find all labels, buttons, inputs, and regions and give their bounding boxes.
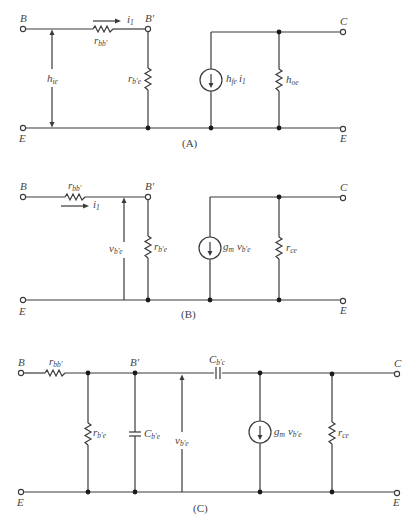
label-e-out: E — [392, 496, 400, 508]
junction-dot — [277, 126, 282, 131]
resistor-rbb-icon — [93, 26, 113, 32]
label-i1: i1 — [127, 13, 134, 27]
junction-dot — [146, 298, 151, 303]
label-cbc: Cb'c — [209, 353, 226, 367]
junction-dot — [86, 490, 91, 495]
terminal-c — [340, 195, 345, 200]
label-b: B — [18, 356, 25, 368]
terminal-b-prime — [145, 194, 150, 199]
label-c: C — [340, 15, 348, 27]
label-e-out: E — [339, 304, 347, 316]
label-e-out: E — [339, 132, 347, 144]
resistor-rbe-icon — [145, 236, 151, 258]
resistor-rbb-icon — [65, 194, 85, 200]
label-b: B — [20, 12, 27, 24]
label-b-prime: B' — [145, 12, 155, 24]
arrow-down-icon — [258, 435, 263, 440]
terminal-e — [20, 125, 25, 130]
label-rce: rce — [338, 426, 350, 440]
label-rbb: rbb' — [49, 355, 63, 369]
junction-dot — [86, 371, 91, 376]
terminal-e-out — [394, 490, 399, 495]
junction-dot — [146, 126, 151, 131]
hybrid-pi-equivalent-circuits: B B' E C E rbb' i1 hie rb'e hfei1 hoe (A… — [0, 0, 419, 527]
label-hfe-i1: hfei1 — [226, 72, 246, 86]
label-b-prime: B' — [130, 356, 140, 368]
arrow-right-icon — [83, 204, 89, 209]
terminal-e — [18, 489, 23, 494]
label-hie: hie — [47, 72, 59, 86]
label-b: B — [20, 180, 27, 192]
caption-b: (B) — [181, 308, 196, 321]
label-gm-vbe: gmvb'e — [223, 240, 251, 254]
junction-dot — [330, 372, 335, 377]
arrow-down-icon — [208, 251, 213, 256]
junction-dot — [277, 30, 282, 35]
junction-dot — [208, 298, 213, 303]
label-rbe: rb'e — [154, 240, 168, 254]
label-cbe: Cb'e — [144, 427, 161, 441]
label-rbb: rbb' — [94, 34, 108, 48]
label-c: C — [340, 181, 348, 193]
resistor-rbe-icon — [145, 68, 151, 90]
terminal-b — [20, 194, 25, 199]
caption-a: (A) — [182, 137, 198, 150]
resistor-rbe-icon — [85, 423, 91, 445]
terminal-b — [18, 370, 23, 375]
caption-c: (C) — [193, 502, 208, 515]
junction-dot — [330, 490, 335, 495]
circuit-c: B B' E C E rbb' rb'e Cb'e vb'e Cb'c gmvb… — [16, 353, 402, 515]
junction-dot — [133, 371, 138, 376]
label-rbe: rb'e — [128, 72, 142, 86]
arrow-right-icon — [115, 19, 121, 24]
terminal-e — [20, 297, 25, 302]
junction-dot — [258, 490, 263, 495]
label-e: E — [18, 305, 26, 317]
circuit-a: B B' E C E rbb' i1 hie rb'e hfei1 hoe (A… — [18, 12, 348, 150]
terminal-e-out — [340, 298, 345, 303]
label-b-prime: B' — [145, 180, 155, 192]
label-rbb: rbb' — [68, 179, 82, 193]
label-e: E — [18, 132, 26, 144]
junction-dot — [209, 126, 214, 131]
resistor-rbb-icon — [45, 370, 65, 376]
junction-dot — [277, 298, 282, 303]
resistor-rce-icon — [276, 237, 282, 259]
junction-dot — [277, 195, 282, 200]
terminal-c — [394, 371, 399, 376]
label-i1: i1 — [93, 198, 100, 212]
terminal-e-out — [340, 126, 345, 131]
junction-dot — [258, 371, 263, 376]
terminal-c — [340, 29, 345, 34]
arrow-up-icon — [50, 30, 55, 36]
junction-dot — [133, 490, 138, 495]
label-vbe: vb'e — [175, 434, 189, 448]
resistor-hoe-icon — [276, 69, 282, 91]
arrow-up-icon — [122, 198, 127, 204]
label-gm-vbe: gmvb'e — [274, 425, 302, 439]
arrow-down-icon — [209, 83, 214, 88]
label-c: C — [394, 357, 402, 369]
resistor-rce-icon — [329, 422, 335, 444]
terminal-b-prime — [145, 26, 150, 31]
terminal-b — [20, 26, 25, 31]
label-vbe: vb'e — [109, 242, 123, 256]
arrow-down-icon — [50, 122, 55, 128]
arrow-up-icon — [180, 375, 185, 381]
label-rce: rce — [286, 241, 298, 255]
label-e: E — [16, 496, 24, 508]
label-rbe: rb'e — [93, 426, 107, 440]
label-hoe: hoe — [286, 73, 299, 87]
circuit-b: B B' E C E rbb' i1 vb'e rb'e gmvb'e rce … — [18, 179, 348, 321]
